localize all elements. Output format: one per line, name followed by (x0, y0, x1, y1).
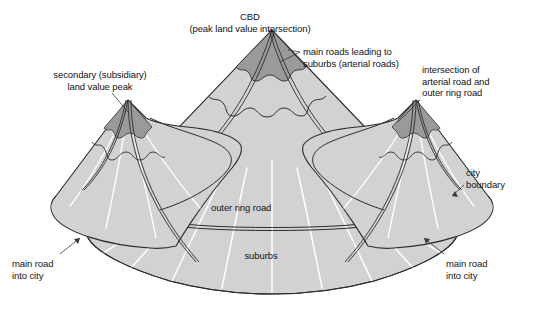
label-main-road-into-city-right: main road into city (446, 258, 518, 281)
label-main-road-into-city-left: main road into city (12, 258, 82, 281)
arrow-mainroad-left (74, 238, 80, 244)
label-outer-ring-road: outer ring road (211, 202, 311, 214)
label-arterial-roads: main roads leading to suburbs (arterial … (303, 46, 438, 69)
label-intersection: intersection of arterial road and outer … (422, 64, 537, 99)
label-suburbs: suburbs (230, 250, 292, 262)
diagram-root: CBD (peak land value intersection) main … (0, 0, 543, 309)
label-city-boundary: city boundary (466, 167, 536, 190)
label-cbd: CBD (peak land value intersection) (150, 11, 350, 34)
label-secondary-peak: secondary (subsidiary) land value peak (30, 69, 170, 92)
